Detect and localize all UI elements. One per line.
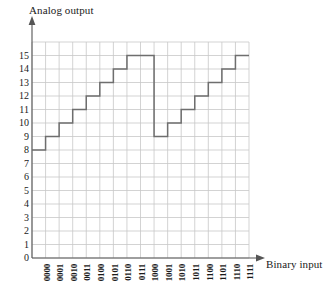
plot-area (0, 0, 325, 298)
arrow-right-icon (256, 255, 265, 262)
arrow-up-icon (29, 16, 36, 25)
chart-container: Analog output Binary input 0123456789101… (0, 0, 325, 298)
axis-lines (29, 16, 265, 261)
grid-lines (32, 42, 249, 258)
